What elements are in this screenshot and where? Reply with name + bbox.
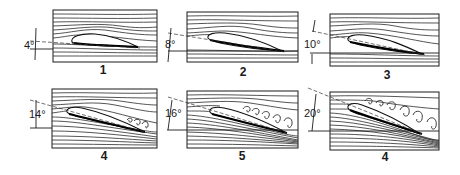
panel-2-angle: 8°: [165, 38, 176, 50]
panel-6: 20° 4: [304, 88, 439, 164]
panel-1: 4° 1: [24, 10, 157, 77]
panel-6-angle: 20°: [304, 107, 321, 119]
panel-6-label: 4: [382, 150, 389, 164]
panel-5-angle: 16°: [165, 107, 182, 119]
panel-4-label: 4: [101, 149, 108, 163]
panel-5-label: 5: [239, 149, 246, 163]
panel-1-angle: 4°: [24, 39, 35, 51]
panel-3-angle: 10°: [304, 38, 321, 50]
airfoil-flow-diagram: 4° 1 8° 2: [0, 0, 460, 175]
panel-3-label: 3: [384, 68, 391, 82]
panel-5: 16° 5: [165, 91, 298, 163]
panel-4-angle: 14°: [29, 108, 46, 120]
panel-2-label: 2: [240, 65, 247, 79]
panel-2: 8° 2: [165, 12, 298, 79]
panel-1-label: 1: [100, 63, 107, 77]
panel-4: 14° 4: [29, 89, 157, 163]
panel-3: 10° 3: [304, 14, 439, 82]
